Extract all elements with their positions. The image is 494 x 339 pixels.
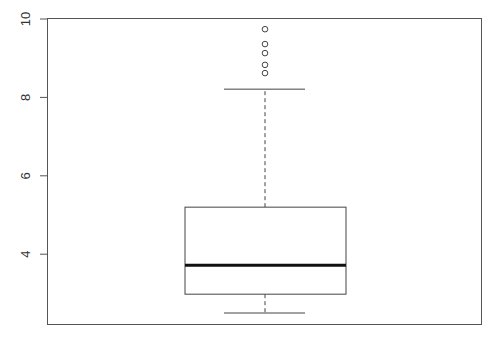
outlier-point: [262, 50, 268, 56]
outlier-point: [262, 70, 268, 76]
outlier-point: [262, 26, 268, 32]
y-tick-label: 6: [18, 172, 33, 179]
box-element: [185, 26, 346, 313]
y-tick-label: 10: [18, 12, 33, 26]
iqr-box: [185, 207, 346, 294]
outlier-point: [262, 41, 268, 47]
outlier-point: [262, 62, 268, 68]
y-tick-label: 4: [18, 251, 33, 258]
box-plot: 46810: [0, 0, 494, 339]
y-tick-label: 8: [18, 94, 33, 101]
y-axis: 46810: [18, 12, 48, 258]
